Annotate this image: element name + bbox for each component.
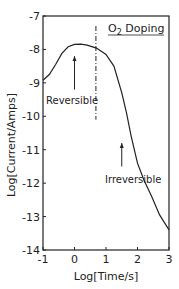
x-tick-label: -1: [38, 253, 49, 266]
y-tick-label: -9: [29, 77, 40, 90]
x-tick-label: 0: [71, 253, 78, 266]
x-tick-label: 3: [166, 253, 173, 266]
x-tick-label: 1: [103, 253, 110, 266]
plot-frame: [43, 16, 169, 250]
y-tick-label: -13: [22, 211, 40, 224]
y-axis-label: Log[Current/Amps]: [5, 93, 18, 197]
annotation-reversible: Reversible: [46, 95, 98, 106]
current-curve: [43, 44, 169, 230]
y-tick-label: -8: [29, 43, 40, 56]
x-axis-label: Log[Time/s]: [74, 270, 139, 283]
x-tick-label: 2: [134, 253, 141, 266]
chart: -7-8-9-10-11-12-13-14 -10123 O2 Doping R…: [0, 0, 179, 289]
y-tick-label: -10: [22, 110, 40, 123]
y-tick-label: -12: [22, 177, 40, 190]
y-tick-label: -7: [29, 10, 40, 23]
annotation-irreversible: Irreversible: [105, 174, 161, 185]
y-tick-label: -11: [22, 144, 40, 157]
